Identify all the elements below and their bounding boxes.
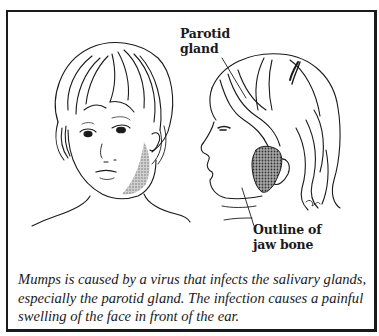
jaw-label-line-1: Outline of [253,222,321,237]
jaw-label-line-2: jaw bone [253,237,321,252]
parotid-gland-label: Parotid gland [180,26,230,56]
caption-line-2: especially the parotid gland. The infect… [18,289,368,308]
figure-caption: Mumps is caused by a virus that infects … [18,270,368,326]
parotid-label-line-1: Parotid [180,26,230,41]
parotid-label-line-2: gland [180,41,230,56]
jaw-bone-label: Outline of jaw bone [253,222,321,252]
side-face [201,54,340,226]
front-face [32,43,190,226]
caption-line-1: Mumps is caused by a virus that infects … [18,270,368,289]
caption-line-3: swelling of the face in front of the ear… [18,307,368,326]
